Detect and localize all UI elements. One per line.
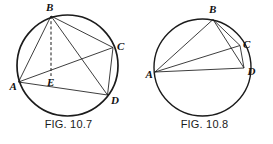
figure-10-7-drawing: ABCDE — [0, 0, 137, 118]
figure-10-7-caption: FIG. 10.7 — [0, 118, 137, 130]
circle-outline — [17, 15, 118, 116]
point-label-d: D — [247, 65, 256, 77]
figure-10-8-caption: FIG. 10.8 — [136, 118, 273, 130]
point-label-e: E — [46, 76, 54, 88]
chord-b-d — [51, 16, 108, 95]
point-label-b: B — [208, 3, 216, 15]
chord-a-d — [155, 68, 244, 72]
point-label-c: C — [117, 40, 125, 52]
chord-a-c — [155, 46, 240, 73]
chord-a-b — [155, 20, 213, 73]
figure-10-8-drawing: ABCD — [136, 0, 273, 118]
point-label-a: A — [145, 68, 153, 80]
figure-10-7: ABCDE FIG. 10.7 — [0, 0, 137, 144]
point-label-b: B — [45, 1, 53, 13]
chord-a-d — [19, 82, 108, 95]
point-label-a: A — [9, 80, 17, 92]
point-label-c: C — [243, 38, 251, 50]
point-label-d: D — [110, 94, 119, 106]
figure-10-8: ABCD FIG. 10.8 — [136, 0, 273, 144]
chord-b-c — [51, 16, 113, 48]
figure-sheet: ABCDE FIG. 10.7 ABCD FIG. 10.8 — [0, 0, 273, 144]
